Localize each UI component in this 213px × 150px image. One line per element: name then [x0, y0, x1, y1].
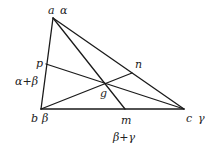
side-ac: [53, 18, 184, 109]
label-n: n: [135, 58, 142, 71]
label-g: g: [100, 87, 107, 100]
label-b-weight: β: [41, 112, 48, 125]
label-b: b: [31, 112, 38, 125]
label-p-weight: α+β: [15, 75, 38, 88]
label-m: m: [121, 114, 131, 127]
cevian-am: [53, 18, 125, 109]
cevian-bn: [41, 73, 132, 109]
label-a-weight: α: [60, 4, 68, 17]
label-p: p: [36, 57, 43, 70]
label-a: a: [48, 4, 55, 17]
label-c-weight: γ: [198, 112, 205, 125]
label-c: c: [186, 112, 192, 125]
cevian-pc: [46, 64, 184, 109]
triangle-diagram: a α p α+β n g b β m β+γ c γ: [0, 0, 213, 150]
label-m-weight: β+γ: [112, 131, 136, 144]
